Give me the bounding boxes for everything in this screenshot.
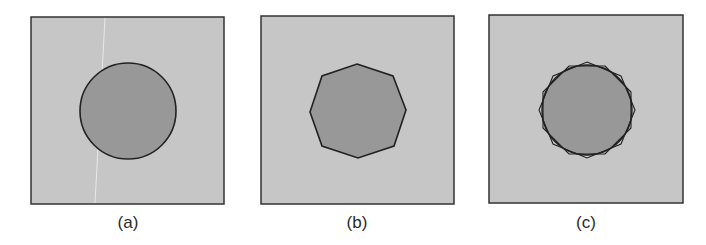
panel-a-label: (a) xyxy=(98,213,158,233)
panel-c-circle xyxy=(542,65,632,155)
panel-a-circle xyxy=(80,63,176,159)
panel-b-octagon xyxy=(310,64,406,158)
figure-canvas xyxy=(0,0,706,245)
panel-a xyxy=(31,17,224,204)
panel-c xyxy=(489,15,683,203)
panel-b xyxy=(261,16,454,204)
panel-c-label: (c) xyxy=(556,213,616,233)
panel-b-label: (b) xyxy=(327,213,387,233)
